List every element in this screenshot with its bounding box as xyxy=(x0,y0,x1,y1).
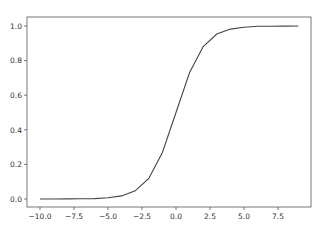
plot-area xyxy=(27,17,311,207)
x-tick-label: 5.0 xyxy=(238,212,250,221)
sigmoid-chart: −10.0−7.5−5.0−2.50.02.55.07.5 0.00.20.40… xyxy=(0,0,320,233)
x-tick-label: −7.5 xyxy=(65,212,83,221)
y-tick-label: 0.2 xyxy=(10,160,22,169)
x-axis: −10.0−7.5−5.0−2.50.02.55.07.5 xyxy=(29,207,285,221)
sigmoid-line xyxy=(40,26,298,199)
y-tick-label: 0.8 xyxy=(10,56,22,65)
y-axis: 0.00.20.40.60.81.0 xyxy=(10,22,27,204)
y-tick-label: 0.6 xyxy=(10,91,22,100)
x-tick-label: −2.5 xyxy=(133,212,151,221)
y-tick-label: 0.4 xyxy=(10,126,22,135)
x-tick-label: 7.5 xyxy=(272,212,284,221)
y-tick-label: 1.0 xyxy=(10,22,22,31)
x-tick-label: −5.0 xyxy=(99,212,117,221)
x-tick-label: −10.0 xyxy=(29,212,52,221)
y-tick-label: 0.0 xyxy=(10,195,22,204)
x-tick-label: 0.0 xyxy=(170,212,182,221)
x-tick-label: 2.5 xyxy=(204,212,216,221)
